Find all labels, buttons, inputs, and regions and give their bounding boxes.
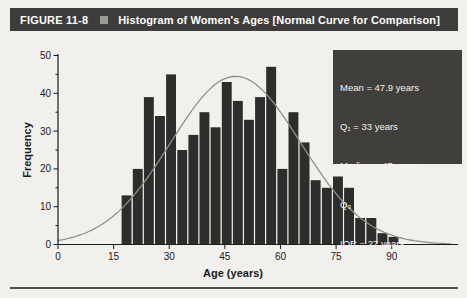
svg-text:Frequency: Frequency — [21, 121, 33, 178]
svg-text:15: 15 — [108, 251, 120, 262]
svg-text:30: 30 — [164, 251, 176, 262]
figure-panel: FIGURE 11-8 Histogram of Women's Ages [N… — [0, 0, 467, 298]
svg-text:0: 0 — [55, 251, 61, 262]
svg-text:45: 45 — [219, 251, 231, 262]
stat-line-q1: Q₁ = 33 years — [340, 120, 455, 133]
svg-text:10: 10 — [40, 201, 52, 212]
svg-text:0: 0 — [45, 239, 51, 250]
stat-line-iqr: IQR = 27 years — [340, 237, 455, 250]
svg-text:30: 30 — [40, 126, 52, 137]
svg-text:Age (years): Age (years) — [203, 267, 263, 279]
svg-text:20: 20 — [40, 163, 52, 174]
svg-text:60: 60 — [275, 251, 287, 262]
summary-stats-box: Mean = 47.9 years Q₁ = 33 years Median =… — [333, 50, 462, 164]
stat-line-q3: Q₃ = 60 years — [340, 198, 455, 211]
bottom-divider — [10, 287, 458, 289]
svg-text:50: 50 — [40, 50, 52, 61]
stat-line-mean: Mean = 47.9 years — [340, 81, 455, 94]
stat-line-median: Median = 47 years — [340, 159, 455, 172]
svg-text:40: 40 — [40, 88, 52, 99]
